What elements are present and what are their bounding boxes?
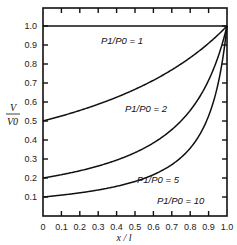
y-tick-label: 0.8 [24, 59, 37, 69]
label-ratio-5: P1/P0 = 5 [137, 174, 180, 185]
label-ratio-2: P1/P0 = 2 [125, 103, 168, 114]
y-tick-label: 0.1 [24, 192, 37, 202]
y-tick-label: 0.5 [24, 116, 37, 126]
x-tick-label: 0.4 [110, 222, 123, 232]
y-tick-labels: 0.10.20.30.40.50.60.70.80.91.0 [24, 21, 37, 202]
x-tick-label: 0.5 [129, 222, 142, 232]
x-tick-label: 0.7 [166, 222, 179, 232]
curve-105 [43, 26, 227, 178]
y-tick-label: 0.2 [24, 173, 37, 183]
x-tick-label: 0.3 [92, 222, 105, 232]
y-tick-label: 1.0 [24, 21, 37, 31]
x-tick-labels: 00.10.20.30.40.50.60.70.80.91.0 [40, 222, 233, 232]
line-chart: 0.10.20.30.40.50.60.70.80.91.0 00.10.20.… [0, 0, 237, 245]
label-ratio-1: P1/P0 = 1 [101, 35, 143, 46]
y-tick-label: 0.3 [24, 154, 37, 164]
x-tick-label: 0.8 [184, 222, 197, 232]
y-tick-label: 0.7 [24, 78, 37, 88]
x-axis-label: x / l [116, 232, 132, 243]
y-tick-label: 0.4 [24, 135, 37, 145]
label-ratio-10: P1/P0 = 10 [157, 195, 205, 206]
x-tick-label: 1.0 [221, 222, 234, 232]
y-tick-label: 0.6 [24, 97, 37, 107]
x-tick-label: 0.2 [74, 222, 87, 232]
y-axis-label: V V0 [6, 102, 20, 127]
x-tick-label: 0.9 [202, 222, 215, 232]
x-tick-label: 0 [40, 222, 45, 232]
x-tick-label: 0.6 [147, 222, 160, 232]
y-tick-label: 0.9 [24, 40, 37, 50]
y-axis-label-denominator: V0 [7, 116, 18, 127]
x-tick-label: 0.1 [55, 222, 68, 232]
y-axis-label-numerator: V [10, 102, 18, 113]
